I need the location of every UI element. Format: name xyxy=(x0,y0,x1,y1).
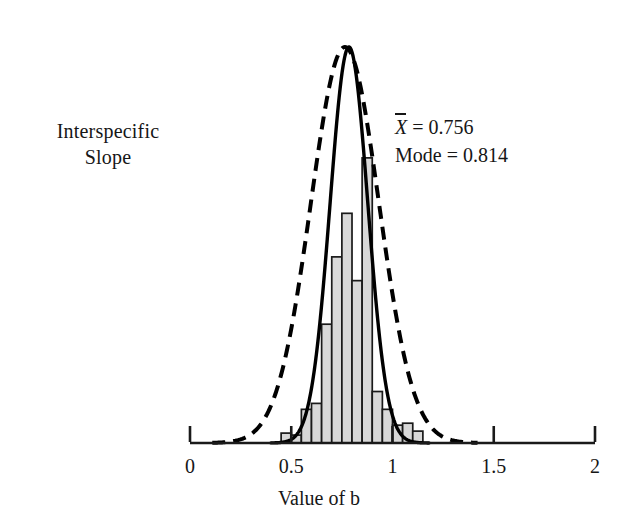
x-axis-title-text: Value of b xyxy=(278,487,360,510)
histogram-bar xyxy=(332,257,342,443)
histogram-bar xyxy=(372,392,382,443)
x-axis-tick-label: 1 xyxy=(388,455,398,478)
x-axis-tick-label: 2 xyxy=(590,455,600,478)
chart-canvas xyxy=(0,0,632,529)
x-axis-tick-label: 1.5 xyxy=(481,455,506,478)
histogram-bar xyxy=(322,324,332,443)
histogram-bar xyxy=(312,403,322,443)
x-axis-tick-label: 0.5 xyxy=(279,455,304,478)
x-axis-ticks xyxy=(190,426,595,442)
histogram-bars xyxy=(281,158,423,443)
mean-value: = 0.756 xyxy=(407,116,473,138)
x-axis-tick-label: 0 xyxy=(185,455,195,478)
x-axis-title: Value of b xyxy=(0,487,632,510)
y-axis-caption: Interspecific Slope xyxy=(18,118,198,170)
x-axis xyxy=(190,426,595,443)
x-bar-symbol: X xyxy=(395,112,407,141)
y-axis-caption-line-2: Slope xyxy=(18,144,198,170)
histogram-bar xyxy=(342,213,352,443)
mode-annotation: Mode = 0.814 xyxy=(395,141,508,169)
mean-annotation: X = 0.756 xyxy=(395,112,508,141)
statistics-annotation: X = 0.756 Mode = 0.814 xyxy=(395,112,508,169)
y-axis-caption-line-1: Interspecific xyxy=(18,118,198,144)
histogram-bar xyxy=(352,281,362,443)
